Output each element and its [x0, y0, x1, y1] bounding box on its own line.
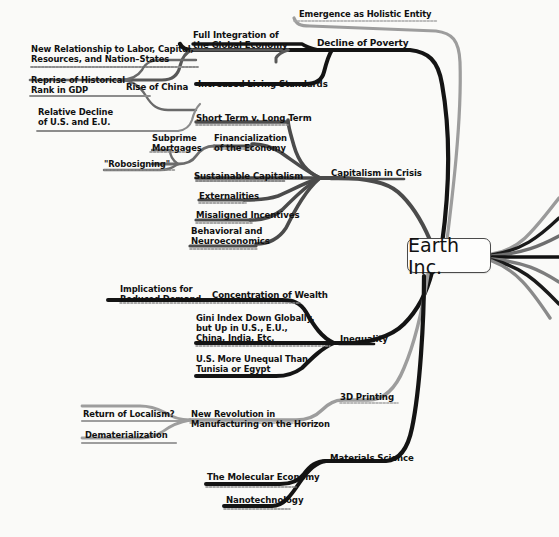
node-label-materials-science[interactable]: Materials Science	[330, 453, 414, 463]
node-label-capitalism-in-crisis[interactable]: Capitalism in Crisis	[331, 168, 422, 178]
node-label-robosigning[interactable]: "Robosigning"	[104, 160, 170, 170]
node-label-full-integration[interactable]: Full Integration of the Global Economy	[193, 30, 288, 50]
node-label-molecular-economy[interactable]: The Molecular Economy	[207, 472, 320, 482]
center-node-earth-inc[interactable]: Earth Inc.	[407, 238, 491, 273]
node-label-emergence[interactable]: Emergence as Holistic Entity	[299, 10, 431, 20]
node-label-inequality[interactable]: Inequality	[340, 334, 388, 344]
node-label-financialization[interactable]: Financialization of the Economy	[214, 134, 287, 154]
node-label-concentration-of-wealth[interactable]: Concentration of Wealth	[212, 290, 328, 300]
node-label-rise-of-china[interactable]: Rise of China	[126, 82, 188, 92]
node-label-new-relationship[interactable]: New Relationship to Labor, Capital, Reso…	[31, 45, 194, 65]
node-label-subprime-mortgages[interactable]: Subprime Mortgages	[152, 134, 202, 154]
node-label-return-of-localism[interactable]: Return of Localism?	[83, 410, 175, 420]
node-label-relative-decline[interactable]: Relative Decline of U.S. and E.U.	[38, 108, 113, 128]
node-label-behavioral-neuro[interactable]: Behavioral and Neuroeconomics	[191, 226, 270, 246]
node-label-misaligned-incentives[interactable]: Misaligned Incentives	[196, 210, 299, 220]
branch-emergence	[294, 18, 460, 248]
node-label-decline-of-poverty[interactable]: Decline of Poverty	[317, 38, 409, 49]
right-fan-branches	[492, 198, 559, 318]
node-label-new-revolution[interactable]: New Revolution in Manufacturing on the H…	[191, 410, 330, 430]
node-label-externalities[interactable]: Externalities	[199, 191, 259, 201]
node-label-us-more-unequal[interactable]: U.S. More Unequal Than Tunisia or Egypt	[196, 355, 308, 375]
node-label-short-term-long-term[interactable]: Short Term v. Long Term	[196, 113, 312, 123]
node-label-sustainable-capitalism[interactable]: Sustainable Capitalism	[194, 171, 303, 181]
node-label-nanotechnology[interactable]: Nanotechnology	[226, 495, 303, 505]
node-label-gini-index[interactable]: Gini Index Down Globally, but Up in U.S.…	[196, 314, 314, 344]
node-label-reprise-historical[interactable]: Reprise of Historical Rank in GDP	[31, 76, 125, 96]
node-label-three-d-printing[interactable]: 3D Printing	[340, 392, 394, 402]
node-label-implications-reduced[interactable]: Implications for Reduced Demand	[120, 285, 201, 305]
node-label-dematerialization[interactable]: Dematerialization	[85, 431, 168, 441]
center-node-label: Earth Inc.	[408, 234, 490, 278]
node-label-increased-living-standards[interactable]: Increased Living Standards	[198, 79, 328, 89]
